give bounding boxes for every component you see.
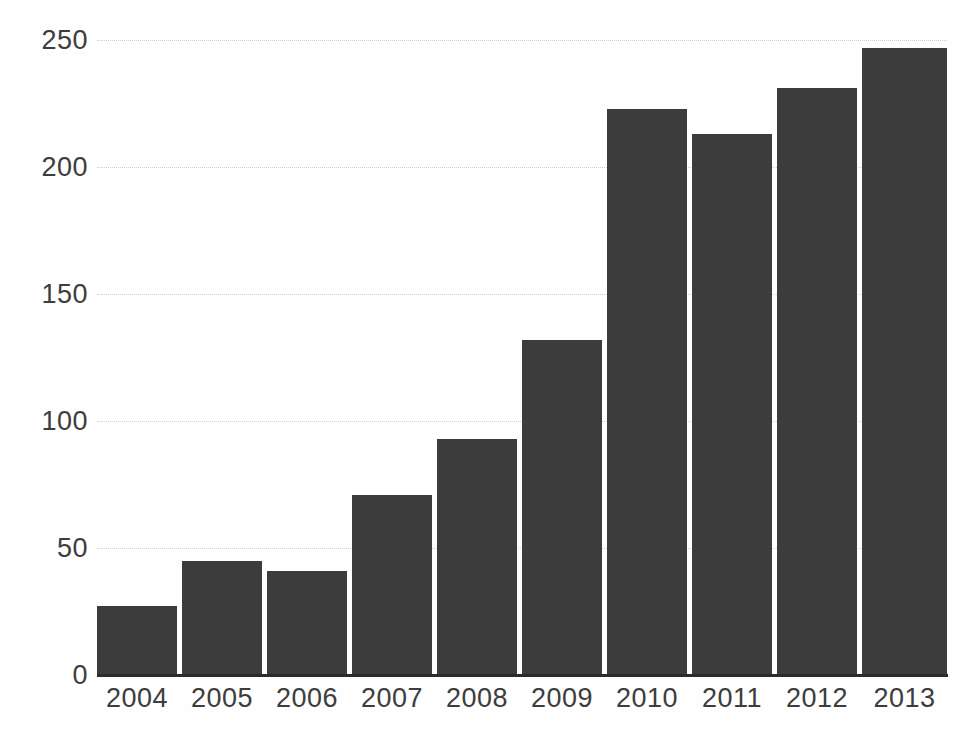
y-tick-label-250: 250 (2, 27, 88, 54)
x-tick-label-2004: 2004 (97, 683, 177, 714)
plot-area (97, 40, 947, 675)
bar-2006 (267, 571, 347, 675)
y-tick-label-50: 50 (2, 535, 88, 562)
x-tick-label-2007: 2007 (352, 683, 432, 714)
x-axis-line (97, 674, 948, 677)
y-tick-label-100: 100 (2, 408, 88, 435)
y-tick-label-200: 200 (2, 154, 88, 181)
x-tick-label-2013: 2013 (862, 683, 947, 714)
x-tick-label-2005: 2005 (182, 683, 262, 714)
x-tick-label-2011: 2011 (692, 683, 772, 714)
bar-2011 (692, 134, 772, 675)
x-tick-label-2010: 2010 (607, 683, 687, 714)
bar-2007 (352, 495, 432, 675)
bar-2010 (607, 109, 687, 675)
y-tick-label-0: 0 (2, 662, 88, 689)
y-axis-tick-labels: 250 200 150 100 50 0 (0, 0, 88, 742)
bar-2008 (437, 439, 517, 675)
bar-chart: 250 200 150 100 50 0 2004 2005 2006 2007… (0, 0, 976, 742)
x-tick-label-2012: 2012 (777, 683, 857, 714)
bar-2009 (522, 340, 602, 675)
x-tick-label-2008: 2008 (437, 683, 517, 714)
bar-2013 (862, 48, 947, 675)
x-axis-tick-labels: 2004 2005 2006 2007 2008 2009 2010 2011 … (97, 683, 947, 727)
y-tick-label-150: 150 (2, 281, 88, 308)
x-tick-label-2009: 2009 (522, 683, 602, 714)
x-tick-label-2006: 2006 (267, 683, 347, 714)
bar-2005 (182, 561, 262, 675)
bar-2004 (97, 606, 177, 675)
bar-2012 (777, 88, 857, 675)
gridline-250 (97, 40, 947, 41)
